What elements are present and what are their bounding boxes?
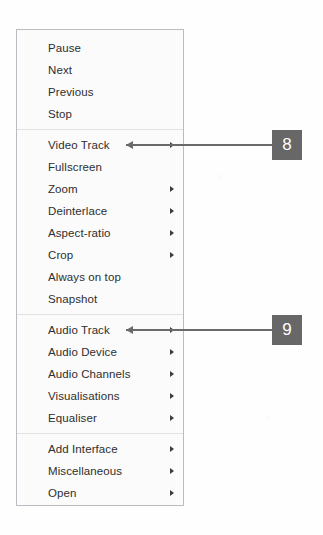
video-group: Video TrackFullscreenZoomDeinterlaceAspe… xyxy=(17,129,183,310)
submenu-chevron-right-icon xyxy=(170,490,174,496)
menu-item-fullscreen[interactable]: Fullscreen xyxy=(17,156,183,178)
menu-item-label: Audio Device xyxy=(48,341,117,363)
menu-item-label: Deinterlace xyxy=(48,200,107,222)
menu-item-label: Audio Track xyxy=(48,319,110,341)
menu-item-always-on-top[interactable]: Always on top xyxy=(17,266,183,288)
tools-group: Add InterfaceMiscellaneousOpen xyxy=(17,433,183,504)
callout-arrowhead-icon xyxy=(126,326,133,334)
menu-item-miscellaneous[interactable]: Miscellaneous xyxy=(17,460,183,482)
submenu-chevron-right-icon xyxy=(170,252,174,258)
submenu-chevron-right-icon xyxy=(170,349,174,355)
menu-item-snapshot[interactable]: Snapshot xyxy=(17,288,183,310)
menu-item-label: Zoom xyxy=(48,178,78,200)
figure-canvas: PauseNextPreviousStopVideo TrackFullscre… xyxy=(0,0,323,535)
menu-item-label: Crop xyxy=(48,244,73,266)
audio-group: Audio TrackAudio DeviceAudio ChannelsVis… xyxy=(17,314,183,429)
menu-item-label: Aspect-ratio xyxy=(48,222,111,244)
menu-item-label: Audio Channels xyxy=(48,363,131,385)
menu-item-equaliser[interactable]: Equaliser xyxy=(17,407,183,429)
menu-item-label: Pause xyxy=(48,37,81,59)
menu-item-label: Previous xyxy=(48,81,94,103)
menu-item-label: Miscellaneous xyxy=(48,460,122,482)
submenu-chevron-right-icon xyxy=(170,208,174,214)
menu-item-label: Video Track xyxy=(48,134,110,156)
submenu-chevron-right-icon xyxy=(170,446,174,452)
menu-item-previous[interactable]: Previous xyxy=(17,81,183,103)
menu-item-label: Visualisations xyxy=(48,385,120,407)
menu-item-aspect-ratio[interactable]: Aspect-ratio xyxy=(17,222,183,244)
menu-item-label: Add Interface xyxy=(48,438,118,460)
menu-item-label: Stop xyxy=(48,103,72,125)
menu-item-label: Open xyxy=(48,482,77,504)
submenu-chevron-right-icon xyxy=(170,415,174,421)
menu-item-label: Fullscreen xyxy=(48,156,102,178)
menu-item-audio-device[interactable]: Audio Device xyxy=(17,341,183,363)
submenu-chevron-right-icon xyxy=(170,393,174,399)
submenu-chevron-right-icon xyxy=(170,186,174,192)
menu-item-visualisations[interactable]: Visualisations xyxy=(17,385,183,407)
callout-connector-line xyxy=(126,329,272,331)
callout-connector-line xyxy=(126,144,272,146)
playback-controls-group: PauseNextPreviousStop xyxy=(17,30,183,125)
menu-item-open[interactable]: Open xyxy=(17,482,183,504)
menu-item-audio-channels[interactable]: Audio Channels xyxy=(17,363,183,385)
menu-item-pause[interactable]: Pause xyxy=(17,37,183,59)
menu-item-label: Always on top xyxy=(48,266,121,288)
menu-item-next[interactable]: Next xyxy=(17,59,183,81)
callout-arrowhead-icon xyxy=(126,141,133,149)
playback-context-menu[interactable]: PauseNextPreviousStopVideo TrackFullscre… xyxy=(16,29,184,506)
submenu-chevron-right-icon xyxy=(170,371,174,377)
menu-item-label: Snapshot xyxy=(48,288,97,310)
menu-item-crop[interactable]: Crop xyxy=(17,244,183,266)
callout-number-badge: 9 xyxy=(272,315,302,345)
menu-item-deinterlace[interactable]: Deinterlace xyxy=(17,200,183,222)
menu-item-zoom[interactable]: Zoom xyxy=(17,178,183,200)
menu-item-add-interface[interactable]: Add Interface xyxy=(17,438,183,460)
menu-item-label: Next xyxy=(48,59,72,81)
callout-number-badge: 8 xyxy=(272,130,302,160)
menu-item-label: Equaliser xyxy=(48,407,97,429)
menu-item-stop[interactable]: Stop xyxy=(17,103,183,125)
submenu-chevron-right-icon xyxy=(170,230,174,236)
submenu-chevron-right-icon xyxy=(170,468,174,474)
